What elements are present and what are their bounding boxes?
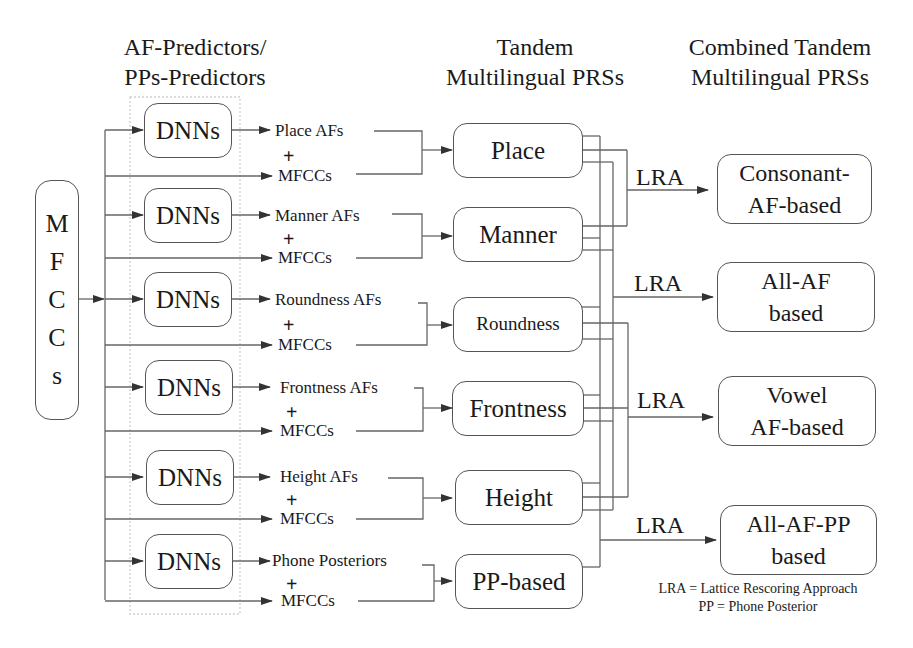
header-tandem: Tandem Multilingual PRSs [425, 32, 645, 92]
mfccs-letter-c2: C [48, 319, 65, 357]
prs-box-frontness: Frontness [452, 381, 584, 436]
prs-box-pp-based: PP-based [455, 554, 583, 609]
dnn-box-place: DNNs [144, 103, 232, 158]
header-combined-line2: Multilingual PRSs [660, 62, 900, 92]
mfccs-input-box: M F C C s [35, 180, 79, 420]
prs-box-manner: Manner [453, 207, 583, 262]
combined-all-af-pp-line2: based [771, 540, 826, 572]
feature-label-frontness: Frontness AFs [280, 378, 378, 398]
legend: LRA = Lattice Rescoring Approach PP = Ph… [618, 580, 898, 616]
mfcc-label-manner: MFCCs [278, 248, 332, 268]
prs-box-roundness: Roundness [453, 297, 583, 352]
combined-all-af-line1: All-AF [761, 265, 830, 297]
prs-box-height: Height [455, 470, 583, 525]
combined-box-consonant: Consonant- AF-based [717, 154, 872, 224]
combined-vowel-line2: AF-based [750, 411, 843, 443]
legend-lra: LRA = Lattice Rescoring Approach [618, 580, 898, 598]
mfcc-label-roundness: MFCCs [278, 335, 332, 355]
mfcc-label-place: MFCCs [278, 166, 332, 186]
dnn-box-frontness: DNNs [145, 360, 233, 415]
combined-box-vowel: Vowel AF-based [718, 376, 876, 446]
feature-label-manner: Manner AFs [275, 206, 360, 226]
header-tandem-line2: Multilingual PRSs [425, 62, 645, 92]
feature-label-height: Height AFs [280, 467, 358, 487]
lra-label-all-af-pp: LRA [636, 512, 684, 538]
header-tandem-line1: Tandem [425, 32, 645, 62]
prs-box-place: Place [453, 123, 583, 178]
mfccs-letter-m: M [45, 205, 68, 243]
combined-all-af-line2: based [769, 297, 824, 329]
lra-label-vowel: LRA [637, 387, 685, 413]
plus-sign-manner: + [283, 229, 294, 249]
lra-label-consonant: LRA [636, 164, 684, 190]
combined-box-all-af: All-AF based [717, 262, 875, 332]
combined-consonant-line2: AF-based [748, 189, 841, 221]
combined-consonant-line1: Consonant- [739, 157, 850, 189]
dnn-box-height: DNNs [146, 450, 234, 505]
header-predictors: AF-Predictors/ PPs-Predictors [100, 32, 290, 92]
plus-sign-height: + [286, 490, 297, 510]
mfcc-label-height: MFCCs [280, 509, 334, 529]
feature-label-roundness: Roundness AFs [275, 290, 381, 310]
mfccs-letter-f: F [50, 243, 64, 281]
combined-all-af-pp-line1: All-AF-PP [746, 508, 850, 540]
dnn-box-phone: DNNs [145, 534, 233, 589]
legend-pp: PP = Phone Posterior [618, 598, 898, 616]
plus-sign-place: + [283, 146, 294, 166]
mfcc-label-phone: MFCCs [281, 591, 335, 611]
mfcc-label-frontness: MFCCs [280, 421, 334, 441]
header-predictors-line1: AF-Predictors/ [100, 32, 290, 62]
plus-sign-roundness: + [283, 315, 294, 335]
mfccs-label: M F C C s [45, 205, 68, 395]
dnn-box-manner: DNNs [144, 188, 232, 243]
header-combined-line1: Combined Tandem [660, 32, 900, 62]
header-predictors-line2: PPs-Predictors [100, 62, 290, 92]
feature-label-place: Place AFs [275, 121, 343, 141]
plus-sign-frontness: + [286, 402, 297, 422]
lra-label-all-af: LRA [634, 270, 682, 296]
header-combined: Combined Tandem Multilingual PRSs [660, 32, 900, 92]
combined-box-all-af-pp: All-AF-PP based [720, 505, 877, 575]
combined-vowel-line1: Vowel [767, 379, 828, 411]
mfccs-letter-c1: C [48, 281, 65, 319]
dnn-box-roundness: DNNs [144, 272, 232, 327]
feature-label-phone-posteriors: Phone Posteriors [272, 551, 387, 571]
mfccs-letter-s: s [52, 357, 62, 395]
